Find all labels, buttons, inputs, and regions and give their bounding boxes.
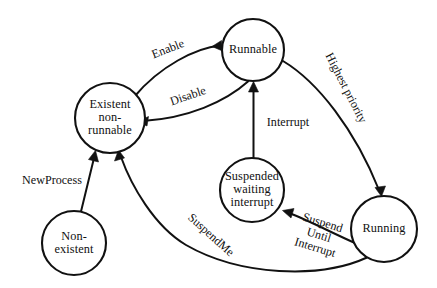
- edge-enable: [135, 46, 221, 97]
- state-node-runnable[interactable]: [222, 19, 284, 81]
- state-node-non-existent[interactable]: [42, 211, 106, 275]
- edge-suspend-until-interrupt-arrowhead: [283, 209, 295, 219]
- state-diagram: Existent non- runnable Runnable Suspende…: [0, 0, 437, 288]
- edge-suspend-until-interrupt: [289, 213, 355, 243]
- edge-highest-priority-arrowhead: [375, 186, 386, 197]
- edge-enable-arrowhead: [212, 41, 223, 52]
- edge-new-process: [81, 158, 94, 212]
- edge-interrupt-arrowhead: [249, 82, 259, 93]
- edge-highest-priority: [283, 61, 379, 190]
- diagram-canvas: [0, 0, 437, 288]
- edge-disable: [143, 82, 248, 122]
- state-node-existent-non-runnable[interactable]: [75, 83, 145, 153]
- state-node-running[interactable]: [351, 196, 417, 262]
- edge-new-process-arrowhead: [89, 151, 99, 163]
- state-node-suspended-waiting-interrupt[interactable]: [220, 158, 284, 222]
